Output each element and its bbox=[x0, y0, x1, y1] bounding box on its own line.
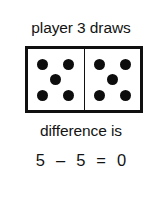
pip-bottom-right bbox=[120, 90, 131, 101]
pip-bottom-left bbox=[94, 90, 105, 101]
pip-bottom-right bbox=[63, 90, 74, 101]
difference-equation: 5 – 5 = 0 bbox=[0, 150, 162, 170]
pip-top-left bbox=[37, 59, 48, 70]
pip-top-left bbox=[94, 59, 105, 70]
domino-tile bbox=[25, 46, 143, 113]
pip-top-right bbox=[120, 59, 131, 70]
domino-figure: player 3 draws difference is 5 – 5 = 0 bbox=[0, 0, 162, 198]
pip-top-right bbox=[63, 59, 74, 70]
pip-bottom-left bbox=[37, 90, 48, 101]
domino-half-right bbox=[85, 49, 141, 110]
pip-center bbox=[50, 74, 61, 85]
domino-half-left bbox=[28, 49, 85, 110]
caption-difference-is: difference is bbox=[0, 122, 162, 140]
caption-player-draws: player 3 draws bbox=[0, 19, 162, 37]
pip-center bbox=[107, 74, 118, 85]
